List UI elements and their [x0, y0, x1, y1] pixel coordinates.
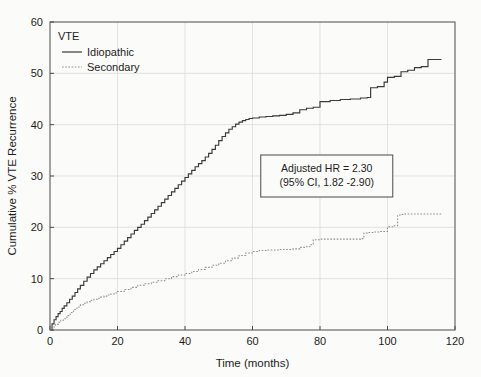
- annotation-line: Adjusted HR = 2.30: [281, 162, 373, 174]
- y-tick-label: 50: [31, 67, 43, 79]
- y-tick-label: 30: [31, 170, 43, 182]
- x-tick-label: 120: [446, 335, 464, 347]
- series-secondary: [50, 214, 442, 330]
- y-tick-label: 60: [31, 16, 43, 28]
- y-axis-title: Cumulative % VTE Recurrence: [6, 96, 18, 255]
- legend: VTEIdiopathicSecondary: [58, 30, 140, 73]
- legend-label-idiopathic: Idiopathic: [87, 46, 135, 58]
- annotation-hazard-ratio: Adjusted HR = 2.30(95% CI, 1.82 -2.90): [261, 155, 393, 197]
- x-axis-title: Time (months): [216, 357, 290, 369]
- x-tick-label: 40: [179, 335, 191, 347]
- x-tick-label: 100: [378, 335, 396, 347]
- y-tick-label: 10: [31, 273, 43, 285]
- annotation-line: (95% CI, 1.82 -2.90): [279, 176, 374, 188]
- x-tick-label: 60: [246, 335, 258, 347]
- legend-label-secondary: Secondary: [87, 61, 140, 73]
- y-tick-label: 0: [37, 324, 43, 336]
- x-tick-label: 0: [47, 335, 53, 347]
- x-tick-label: 80: [314, 335, 326, 347]
- vte-recurrence-chart: 0204060801001200102030405060 Time (month…: [0, 0, 481, 377]
- x-tick-label: 20: [111, 335, 123, 347]
- y-tick-label: 20: [31, 221, 43, 233]
- y-tick-label: 40: [31, 119, 43, 131]
- figure-container: 0204060801001200102030405060 Time (month…: [0, 0, 481, 377]
- legend-title: VTE: [58, 30, 79, 42]
